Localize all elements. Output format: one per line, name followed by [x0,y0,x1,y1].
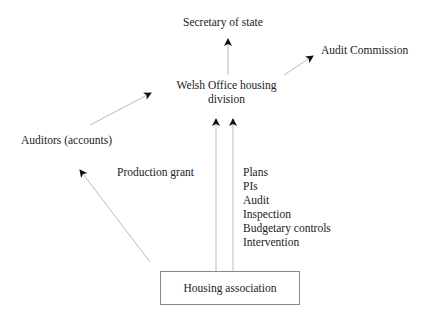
control-item: Audit [243,193,331,207]
control-item: Plans [243,165,331,179]
arrow-welsh-to-audit-commission [284,56,313,75]
node-auditors: Auditors (accounts) [21,133,112,147]
control-item: PIs [243,179,331,193]
control-item: Budgetary controls [243,221,331,235]
housing-association-label: Housing association [184,281,277,295]
welsh-office-line2: division [170,92,283,106]
node-housing-association: Housing association [160,271,300,305]
node-audit-commission: Audit Commission [321,43,408,57]
control-item: Inspection [243,207,331,221]
arrow-ha-to-auditors [80,170,150,262]
arrow-auditors-to-welsh [90,93,151,125]
label-controls-list: Plans PIs Audit Inspection Budgetary con… [243,165,331,249]
node-secretary-of-state: Secretary of state [183,15,263,29]
node-welsh-office: Welsh Office housing division [170,78,283,106]
control-item: Intervention [243,235,331,249]
welsh-office-line1: Welsh Office housing [170,78,283,92]
label-production-grant: Production grant [117,165,194,179]
